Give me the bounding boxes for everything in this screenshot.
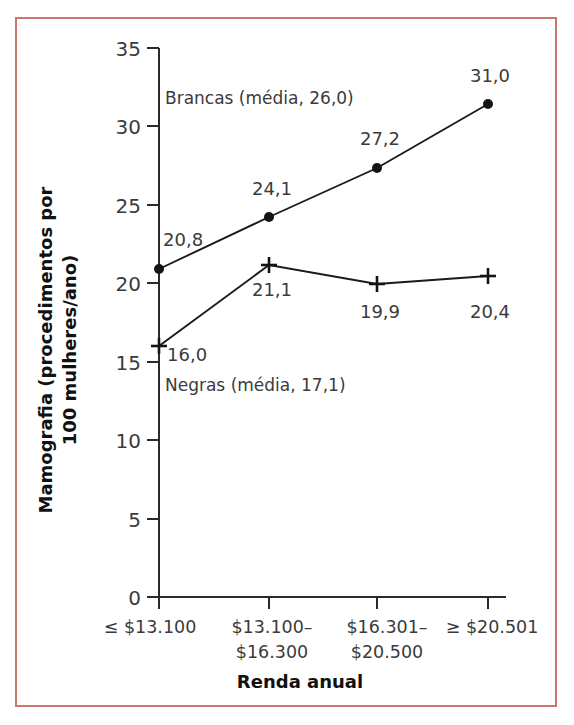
series-point-negras-2 — [369, 276, 385, 292]
x-tick-label-3-line1: ≥ $20.501 — [446, 617, 539, 637]
y-tick-label-20: 20 — [116, 272, 141, 296]
y-tick-label-30: 30 — [116, 115, 141, 139]
y-axis-title-line1: Mamografia (procedimentos por — [35, 186, 56, 513]
series-value-label-negras-1: 21,1 — [252, 279, 292, 300]
y-tick-label-15: 15 — [116, 351, 141, 375]
series-point-brancas-2 — [372, 163, 382, 173]
series-line-negras — [159, 265, 488, 346]
series-value-label-brancas-1: 24,1 — [252, 178, 292, 199]
series-value-label-negras-3: 20,4 — [470, 301, 510, 322]
series-value-label-brancas-0: 20,8 — [163, 229, 203, 250]
x-tick-label-2-line1: $16.301– — [346, 617, 427, 637]
x-tick-label-1-line1: $13.100– — [231, 617, 312, 637]
series-point-brancas-3 — [483, 99, 493, 109]
series-point-negras-3 — [480, 268, 496, 284]
y-tick-label-35: 35 — [116, 37, 141, 61]
series-legend-negras: Negras (média, 17,1) — [165, 375, 346, 395]
figure-container: 35 30 25 20 15 10 5 0 ≤ $13.100 $13.100–… — [0, 0, 574, 725]
series-point-brancas-1 — [264, 212, 274, 222]
series-point-brancas-0 — [154, 264, 164, 274]
series-legend-brancas: Brancas (média, 26,0) — [165, 88, 354, 108]
y-tick-label-10: 10 — [116, 429, 141, 453]
series-value-label-negras-2: 19,9 — [360, 301, 400, 322]
series-point-negras-0 — [151, 338, 167, 354]
series-line-brancas — [159, 104, 488, 269]
chart-plot: 35 30 25 20 15 10 5 0 ≤ $13.100 $13.100–… — [0, 0, 574, 725]
y-tick-label-25: 25 — [116, 194, 141, 218]
series-point-negras-1 — [261, 257, 277, 273]
x-tick-label-2-line2: $20.500 — [351, 642, 423, 662]
y-tick-label-0: 0 — [128, 586, 141, 610]
series-value-label-brancas-2: 27,2 — [360, 128, 400, 149]
x-tick-label-1-line2: $16.300 — [236, 642, 308, 662]
y-tick-label-5: 5 — [128, 508, 141, 532]
series-value-label-brancas-3: 31,0 — [470, 65, 510, 86]
y-axis-title-line2: 100 mulheres/ano) — [59, 255, 80, 446]
series-value-label-negras-0: 16,0 — [167, 344, 207, 365]
x-axis-title: Renda anual — [237, 671, 363, 692]
y-axis-title-group: Mamografia (procedimentos por 100 mulher… — [35, 186, 80, 513]
x-tick-label-0-line1: ≤ $13.100 — [104, 617, 197, 637]
